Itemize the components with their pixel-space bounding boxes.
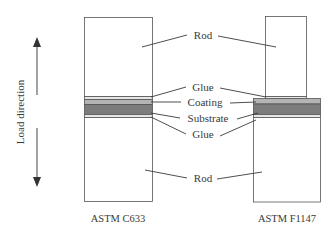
label-glue-bottom: Glue (192, 128, 214, 140)
label-glue-top: Glue (192, 81, 214, 93)
rod-top-right (266, 17, 307, 97)
label-rod-bottom: Rod (194, 172, 213, 184)
load-direction-label: Load direction (14, 79, 26, 144)
coating-right (254, 99, 321, 105)
coating-left (85, 100, 153, 105)
rod-bottom-left (85, 118, 153, 202)
glue-bottom-right (254, 115, 321, 118)
substrate-left (85, 105, 153, 115)
caption-astm-f1147: ASTM F1147 (258, 213, 316, 224)
label-rod-top: Rod (194, 29, 213, 41)
label-coating: Coating (188, 96, 223, 108)
glue-top-left (85, 97, 153, 100)
specimen-astm-c633 (85, 18, 153, 202)
substrate-right (254, 104, 321, 115)
label-substrate: Substrate (188, 112, 229, 124)
rod-bottom-right (254, 118, 321, 203)
load-direction-arrow-icon (33, 37, 41, 187)
specimen-diagram: Load direction (0, 0, 333, 236)
caption-astm-c633: ASTM C633 (91, 213, 146, 224)
rod-top-left (85, 18, 153, 97)
glue-bottom-left (85, 115, 153, 118)
